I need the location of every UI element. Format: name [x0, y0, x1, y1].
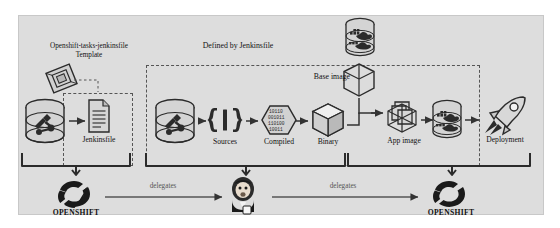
node-label-base-image: Base image: [298, 73, 350, 82]
node-git-repo-mid: [152, 96, 198, 146]
binary-hexagon-icon: 10110 001011 110100 10011: [261, 104, 297, 136]
group-label-template-line2: Template: [29, 51, 149, 59]
actor-label-openshift-right: OPENSHIFT: [428, 208, 475, 217]
cube-icon: [311, 102, 345, 138]
node-app-image: App image: [385, 99, 423, 149]
node-jenkinsfile-doc: Jenkinsfile: [86, 99, 112, 145]
diagram-canvas: Openshift-tasks-jenkinsfile Template Def…: [0, 0, 560, 228]
node-binary: Binary: [311, 102, 345, 150]
rocket-icon: [483, 96, 527, 136]
node-label-deployment: Deployment: [486, 135, 524, 144]
node-label-binary: Binary: [318, 137, 339, 146]
node-compiled: 10110 001011 110100 10011 Compiled: [261, 104, 297, 150]
docker-registry-cylinder-icon: [430, 98, 464, 140]
node-label-sources: Sources: [213, 137, 237, 146]
document-icon: [86, 99, 112, 133]
jenkins-butler-icon: [228, 176, 260, 216]
node-git-repo-left: [22, 96, 68, 146]
openshift-logo-icon: [432, 180, 470, 206]
docker-registry-cylinder-icon: [343, 16, 377, 58]
actor-label-openshift-left: OPENSHIFT: [53, 208, 100, 217]
actor-openshift-left: OPENSHIFT: [57, 180, 95, 218]
svg-text:110100: 110100: [268, 121, 285, 126]
actor-jenkins: [228, 176, 260, 216]
git-repository-cylinder-icon: [22, 96, 68, 146]
code-braces-icon: [205, 106, 245, 134]
arrow-label-delegates-1: delegates: [132, 182, 194, 190]
cube-stack-icon: [385, 99, 423, 137]
node-label-compiled: Compiled: [264, 137, 294, 146]
actor-openshift-right: OPENSHIFT: [432, 180, 470, 218]
node-deployment: Deployment: [483, 96, 527, 148]
node-label-app-image: App image: [387, 136, 421, 145]
group-label-jenkinsfile: Defined by Jenkinsfile: [173, 42, 303, 51]
template-blueprint-icon: [45, 62, 78, 95]
node-template-icon: [45, 62, 78, 95]
svg-text:10011: 10011: [269, 127, 283, 132]
node-sources: Sources: [205, 106, 245, 150]
openshift-logo-icon: [57, 180, 95, 206]
arrow-label-delegates-2: delegates: [312, 182, 374, 190]
svg-text:001011: 001011: [268, 115, 285, 120]
node-label-jenkinsfile: Jenkinsfile: [83, 135, 116, 144]
git-repository-cylinder-icon: [152, 96, 198, 146]
node-docker-registry-right: [430, 98, 464, 146]
group-label-template-line1: Openshift-tasks-jenkinsfile: [29, 42, 149, 50]
svg-text:10110: 10110: [269, 109, 283, 114]
node-docker-registry-top: [343, 16, 377, 58]
